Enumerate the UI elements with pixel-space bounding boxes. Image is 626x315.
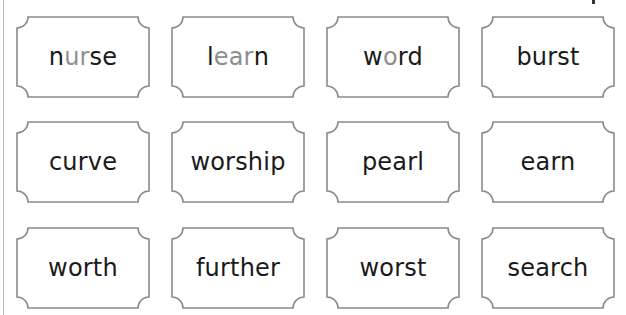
word-card: burst (481, 16, 615, 98)
word-letters: pearl (362, 148, 424, 176)
highlighted-letters: ear (214, 43, 254, 71)
word-letters: curve (49, 148, 117, 176)
card-word: curve (16, 121, 150, 203)
left-margin-rule (3, 0, 4, 315)
word-letters: earn (521, 148, 576, 176)
word-card: worth (16, 227, 150, 309)
card-word: word (326, 16, 460, 98)
word-letters: n (254, 43, 269, 71)
word-card: learn (171, 16, 305, 98)
word-card: word (326, 16, 460, 98)
card-word: pearl (326, 121, 460, 203)
word-letters: l (207, 43, 214, 71)
word-letters: search (508, 254, 589, 282)
word-letters: burst (516, 43, 579, 71)
word-card: search (481, 227, 615, 309)
word-letters: further (196, 254, 280, 282)
card-word: earn (481, 121, 615, 203)
word-card: further (171, 227, 305, 309)
word-card: worst (326, 227, 460, 309)
card-word: worst (326, 227, 460, 309)
card-word: learn (171, 16, 305, 98)
card-word: nurse (16, 16, 150, 98)
word-card: nurse (16, 16, 150, 98)
word-letters: se (90, 43, 118, 71)
card-word: worship (171, 121, 305, 203)
highlighted-letters: ur (64, 43, 89, 71)
word-card: earn (481, 121, 615, 203)
card-word: worth (16, 227, 150, 309)
word-card: curve (16, 121, 150, 203)
word-letters: w (363, 43, 383, 71)
word-letters: rd (398, 43, 423, 71)
word-letters: worship (190, 148, 285, 176)
top-corner-mark (592, 0, 595, 4)
card-word: further (171, 227, 305, 309)
word-letters: worth (48, 254, 118, 282)
card-word: burst (481, 16, 615, 98)
word-letters: worst (359, 254, 426, 282)
word-card: pearl (326, 121, 460, 203)
card-word: search (481, 227, 615, 309)
word-letters: n (49, 43, 64, 71)
word-card: worship (171, 121, 305, 203)
highlighted-letters: o (383, 43, 398, 71)
